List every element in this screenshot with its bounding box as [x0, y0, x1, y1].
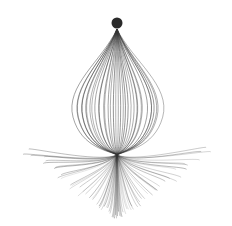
- top-dot: [112, 18, 123, 29]
- line-art-canvas: [0, 0, 232, 226]
